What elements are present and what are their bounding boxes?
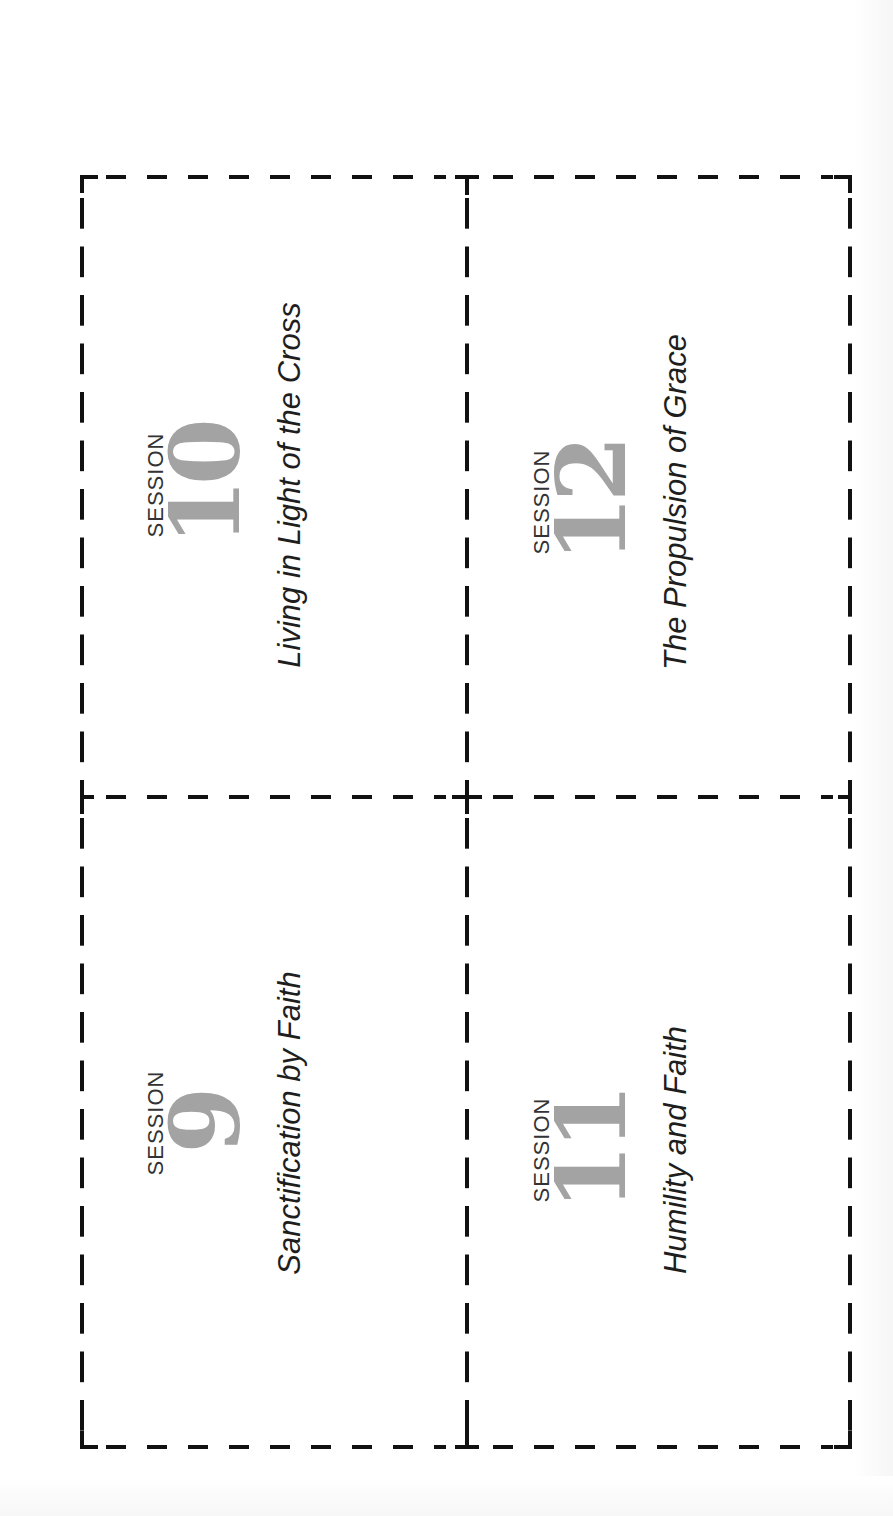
session-card-9: SESSION 9 Sanctification by Faith [84,799,465,1445]
session-card-10: SESSION 10 Living in Light of the Cross [84,179,465,795]
session-title: Humility and Faith [657,1026,695,1274]
cut-line-bottom [106,1445,446,1449]
cut-line-right [848,198,852,788]
page-edge-shadow [853,0,893,1516]
cut-line-bottom-right [493,1445,833,1449]
session-number: 11 [549,1089,635,1211]
session-number: 12 [549,441,635,563]
session-card-12: SESSION 12 The Propulsion of Grace [469,179,848,795]
corner-top-right-v [848,175,852,193]
session-title: The Propulsion of Grace [657,334,695,670]
corner-bottom-right-v [848,1431,852,1449]
session-number: 10 [163,424,249,546]
junction-mid-right-v [848,782,852,814]
session-title: Sanctification by Faith [271,971,309,1274]
session-card-11: SESSION 11 Humility and Faith [469,799,848,1445]
session-title: Living in Light of the Cross [271,302,309,667]
session-number: 9 [163,1093,249,1154]
cut-line-right-lower [848,818,852,1438]
page-bottom-shadow [0,1476,893,1516]
